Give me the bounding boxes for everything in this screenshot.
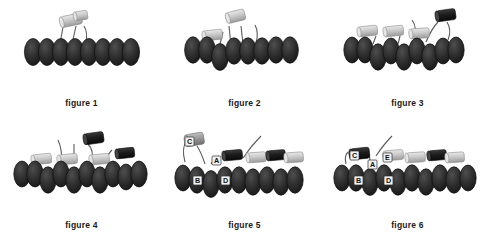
panel-figure-6: C A E B D [326, 122, 489, 244]
figure-6-stage: C A E B D [326, 122, 489, 222]
figure-5-diagram: C A B D [163, 122, 326, 222]
figure-1-diagram [0, 0, 163, 100]
figure-2-beads [185, 37, 299, 71]
figure-6-label-E: E [383, 153, 392, 162]
panel-figure-4: figure 4 [0, 122, 163, 244]
panel-figure-1: figure 1 [0, 0, 163, 122]
figure-2-stage [163, 0, 326, 100]
panel-figure-2: figure 2 [163, 0, 326, 122]
figure-5-stage: C A B D [163, 122, 326, 222]
figure-4-beads [14, 161, 147, 193]
figure-3-diagram [326, 0, 489, 100]
figure-4-cylinders [31, 131, 135, 165]
figure-6-diagram: C A E B D [326, 122, 489, 222]
panel-figure-3: figure 3 [326, 0, 489, 122]
figure-5-label-B-text: B [195, 176, 200, 185]
figure-6-label-C: C [350, 151, 359, 160]
figure-6-label-E-text: E [385, 153, 390, 162]
figure-6-label-D-text: D [386, 176, 391, 185]
figure-3-stage [326, 0, 489, 100]
figure-4-stage [0, 122, 163, 222]
figure-5-label-D: D [221, 176, 230, 185]
figure-4-caption: figure 4 [0, 220, 163, 230]
figure-5-label-A-text: A [214, 156, 219, 165]
figure-5-label-C: C [185, 137, 194, 146]
figure-5-label-A: A [212, 156, 221, 165]
figure-2-cylinders [202, 9, 247, 41]
figure-5-label-B: B [193, 176, 202, 185]
figure-6-label-C-text: C [352, 151, 357, 160]
figure-6-cylinders [348, 147, 464, 163]
figure-1-cylinders [59, 10, 89, 28]
figure-2-diagram [163, 0, 326, 100]
figure-4-diagram [0, 122, 163, 222]
figure-5-label-D-text: D [223, 176, 228, 185]
figure-3-beads [344, 37, 464, 70]
figure-2-caption: figure 2 [163, 98, 326, 108]
figure-6-label-B-text: B [356, 176, 361, 185]
figure-6-label-B: B [354, 176, 363, 185]
figure-3-cylinders [357, 8, 457, 39]
figure-6-caption: figure 6 [326, 220, 489, 230]
figure-5-label-C-text: C [187, 137, 192, 146]
figure-5-cylinders [183, 132, 303, 163]
figure-3-caption: figure 3 [326, 98, 489, 108]
figure-6-label-D: D [384, 176, 393, 185]
figure-1-beads [24, 39, 139, 66]
figure-1-stage [0, 0, 163, 100]
figure-6-label-A-text: A [370, 160, 375, 169]
figure-5-caption: figure 5 [163, 220, 326, 230]
panel-figure-5: C A B D figure 5 [163, 122, 326, 244]
figure-6-label-A: A [368, 160, 377, 169]
figure-grid: figure 1 [0, 0, 489, 244]
figure-1-caption: figure 1 [0, 98, 163, 108]
